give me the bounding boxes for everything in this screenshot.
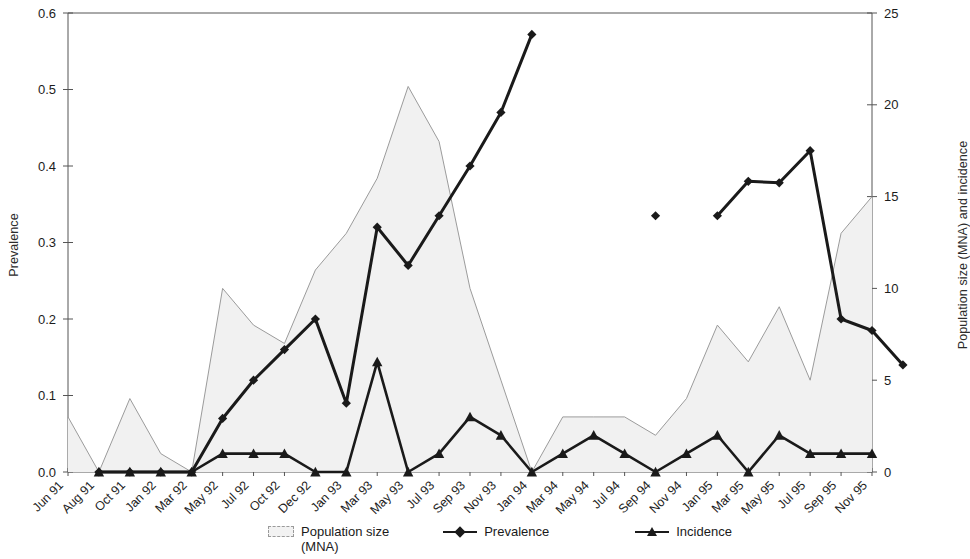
x-axis-tick-label: Jan 92 <box>122 478 158 514</box>
y-axis-left-tick-label: 0.0 <box>38 465 56 480</box>
legend-item-incidence: Incidence <box>635 524 732 539</box>
y-axis-left-tick-label: 0.3 <box>38 235 56 250</box>
y-axis-right-tick-label: 15 <box>884 189 898 204</box>
legend-label-population: Population size (MNA) <box>301 524 389 554</box>
x-axis-tick-label: Nov 94 <box>647 478 685 516</box>
y-axis-right-tick-label: 5 <box>884 373 891 388</box>
legend-label-incidence: Incidence <box>676 524 732 539</box>
y-axis-left-tick-label: 0.1 <box>38 388 56 403</box>
x-axis-tick-label: May 95 <box>738 478 777 517</box>
x-axis-tick-label: Jan 94 <box>494 478 530 514</box>
prevalence-diamond-marker <box>527 30 536 39</box>
chart-legend: Population size (MNA) Prevalence Inciden… <box>268 524 868 559</box>
x-axis-tick-label: Jan 95 <box>679 478 715 514</box>
y-axis-right-tick-label: 0 <box>884 465 891 480</box>
x-axis-tick-label: Jan 93 <box>308 478 344 514</box>
prevalence-diamond-marker <box>651 211 660 220</box>
x-axis-tick-label: May 92 <box>182 478 221 517</box>
x-axis-tick-label: Oct 91 <box>92 478 128 514</box>
y-axis-right-tick-label: 25 <box>884 6 898 21</box>
x-axis-tick-label: Jul 92 <box>218 478 252 512</box>
x-axis-tick-label: May 94 <box>553 478 592 517</box>
x-axis-tick-label: Sep 94 <box>616 478 654 516</box>
x-axis-tick-label: Sep 95 <box>801 478 839 516</box>
legend-label-prevalence: Prevalence <box>484 524 549 539</box>
y-axis-left-tick-label: 0.5 <box>38 82 56 97</box>
y-axis-right-tick-label: 20 <box>884 97 898 112</box>
legend-item-prevalence: Prevalence <box>443 524 549 539</box>
x-axis-tick-label: May 93 <box>367 478 406 517</box>
diamond-marker-icon <box>443 525 477 539</box>
triangle-marker-icon <box>635 525 669 539</box>
x-axis-tick-label: Aug 91 <box>59 478 97 516</box>
y-axis-right-title: Population size (MNA) and incidence <box>956 110 970 380</box>
x-axis-tick-label: Sep 93 <box>430 478 468 516</box>
y-axis-left-tick-label: 0.4 <box>38 159 56 174</box>
x-axis-tick-label: Nov 95 <box>832 478 870 516</box>
y-axis-left-tick-label: 0.6 <box>38 6 56 21</box>
y-axis-left-tick-label: 0.2 <box>38 312 56 327</box>
x-axis-tick-label: Dec 92 <box>276 478 314 516</box>
y-axis-right-tick-label: 10 <box>884 281 898 296</box>
shaded-area-swatch-icon <box>268 526 294 537</box>
x-axis-tick-label: Nov 93 <box>461 478 499 516</box>
legend-item-population: Population size (MNA) <box>268 524 389 554</box>
